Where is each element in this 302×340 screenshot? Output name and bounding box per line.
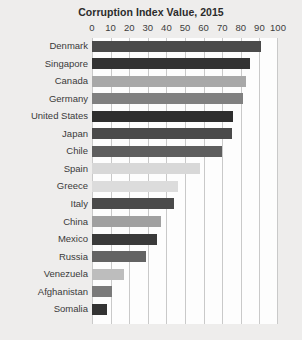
x-tick-label: 60 xyxy=(198,22,209,33)
category-label: Denmark xyxy=(0,40,88,51)
bar xyxy=(92,93,243,104)
x-tick-label: 80 xyxy=(236,22,247,33)
bar xyxy=(92,58,250,69)
category-label: Chile xyxy=(0,145,88,156)
bar xyxy=(92,111,233,122)
x-tick-label: 70 xyxy=(217,22,228,33)
bar xyxy=(92,198,174,209)
category-label: Germany xyxy=(0,93,88,104)
category-label: Afghanistan xyxy=(0,286,88,297)
x-axis-tick-labels: 0102030405060708090100 xyxy=(92,22,278,36)
bar xyxy=(92,163,200,174)
bar xyxy=(92,286,112,297)
x-tick-label: 40 xyxy=(161,22,172,33)
bar xyxy=(92,128,232,139)
category-label: Russia xyxy=(0,251,88,262)
x-tick-label: 0 xyxy=(89,22,94,33)
bar xyxy=(92,304,107,315)
category-label: Spain xyxy=(0,163,88,174)
category-labels: DenmarkSingaporeCanadaGermanyUnited Stat… xyxy=(0,38,88,324)
category-label: Mexico xyxy=(0,233,88,244)
x-tick-label: 30 xyxy=(143,22,154,33)
bar xyxy=(92,146,222,157)
bar xyxy=(92,234,157,245)
bar xyxy=(92,269,124,280)
x-tick-label: 50 xyxy=(180,22,191,33)
bar xyxy=(92,251,146,262)
category-label: Singapore xyxy=(0,58,88,69)
x-tick-label: 90 xyxy=(254,22,265,33)
category-label: Canada xyxy=(0,75,88,86)
x-tick-label: 20 xyxy=(124,22,135,33)
category-label: Italy xyxy=(0,198,88,209)
bar xyxy=(92,216,161,227)
bar xyxy=(92,41,261,52)
x-tick-label: 100 xyxy=(270,22,286,33)
category-label: Venezuela xyxy=(0,268,88,279)
category-label: Somalia xyxy=(0,303,88,314)
chart-title: Corruption Index Value, 2015 xyxy=(0,6,302,18)
x-tick-label: 10 xyxy=(105,22,116,33)
category-label: China xyxy=(0,216,88,227)
corruption-index-bar-chart: Corruption Index Value, 2015 01020304050… xyxy=(0,0,302,340)
bars-layer xyxy=(92,38,278,324)
bar xyxy=(92,181,178,192)
bar xyxy=(92,76,246,87)
category-label: Japan xyxy=(0,128,88,139)
category-label: Greece xyxy=(0,180,88,191)
category-label: United States xyxy=(0,110,88,121)
